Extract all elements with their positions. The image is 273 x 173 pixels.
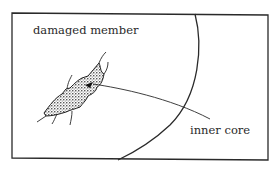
damage-region (44, 63, 104, 116)
label-inner-core: inner core (190, 123, 250, 137)
label-damaged-member: damaged member (33, 23, 138, 37)
